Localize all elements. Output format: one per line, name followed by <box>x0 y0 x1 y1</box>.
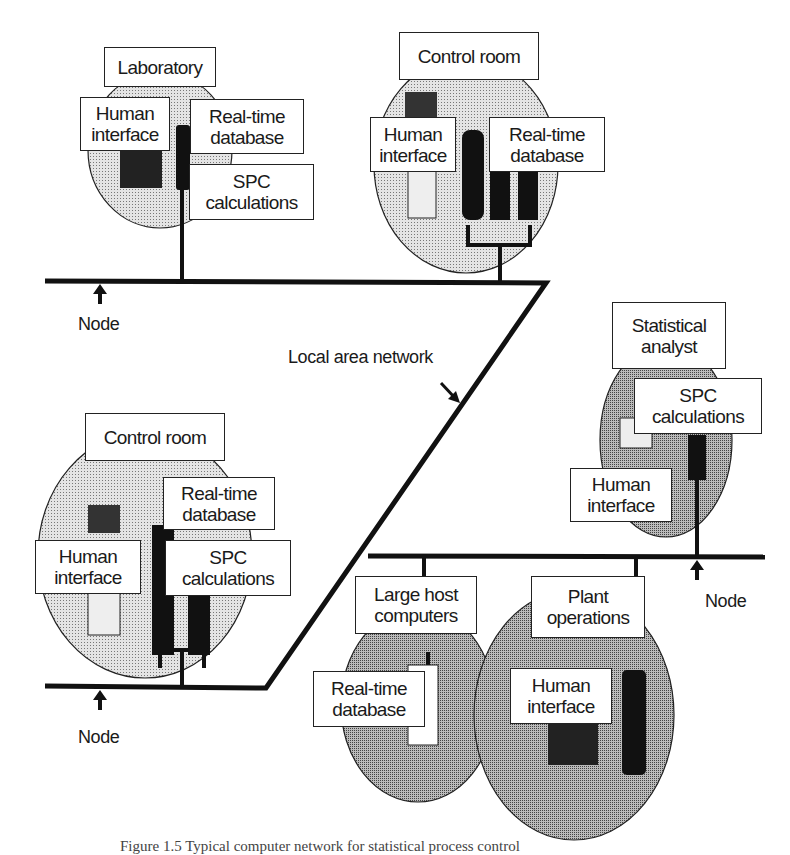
terminal-icon <box>120 150 162 188</box>
lan-label: Local area network <box>288 347 433 368</box>
db-cabinet-icon <box>176 125 190 190</box>
node-label: Node <box>705 591 746 612</box>
db-cabinet-icon <box>462 130 484 220</box>
site-title-control-room-bottom: Control room <box>85 413 225 461</box>
arrow-up-icon <box>93 690 107 710</box>
site-title-control-room-top: Control room <box>399 32 539 80</box>
arrow-up-icon <box>690 560 704 580</box>
component-spc-calculations: SPC calculations <box>165 540 291 596</box>
component-spc-calculations: SPC calculations <box>189 164 314 220</box>
site-title-statistical-analyst: Statistical analyst <box>612 302 726 369</box>
component-real-time-database: Real-time database <box>190 99 304 154</box>
db-cabinet-icon <box>490 170 510 220</box>
site-title-laboratory: Laboratory <box>104 47 216 87</box>
component-human-interface: Human interface <box>370 117 456 172</box>
db-cabinet-icon <box>518 170 538 220</box>
terminal-base-icon <box>408 170 436 218</box>
terminal-icon <box>88 505 120 533</box>
terminal-base-icon <box>88 590 120 635</box>
component-human-interface: Human interface <box>510 668 612 724</box>
db-cabinet-icon <box>688 435 706 480</box>
component-real-time-database: Real-time database <box>163 477 275 530</box>
arrow-up-icon <box>93 284 107 304</box>
terminal-icon <box>548 720 598 765</box>
component-human-interface: Human interface <box>570 468 672 522</box>
component-spc-calculations: SPC calculations <box>634 378 762 434</box>
site-title-large-host: Large host computers <box>355 576 477 634</box>
component-human-interface: Human interface <box>80 97 170 151</box>
node-label: Node <box>78 727 119 748</box>
component-real-time-database: Real-time database <box>313 671 425 727</box>
node-label: Node <box>78 314 119 335</box>
arrow-down-right-icon <box>441 383 460 403</box>
site-title-plant-operations: Plant operations <box>531 576 645 638</box>
component-human-interface: Human interface <box>35 540 141 594</box>
figure-caption: Figure 1.5 Typical computer network for … <box>120 838 520 855</box>
component-real-time-database: Real-time database <box>489 117 605 172</box>
db-cabinet-icon <box>622 670 646 775</box>
